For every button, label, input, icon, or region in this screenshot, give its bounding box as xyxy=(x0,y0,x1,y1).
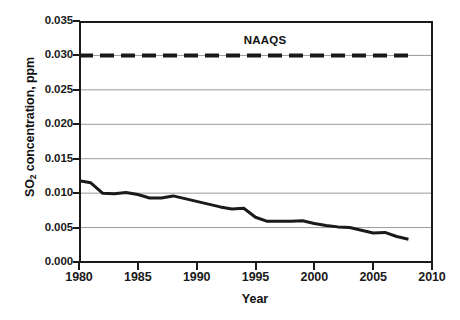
x-axis-tick-label: 1990 xyxy=(171,271,223,284)
plot-area xyxy=(79,21,432,262)
y-axis-tick-mark xyxy=(73,192,80,194)
x-axis-tick-mark xyxy=(137,263,139,270)
y-axis-title-rest: concentration, ppm xyxy=(23,57,37,175)
x-axis-tick-label: 2005 xyxy=(347,271,399,284)
y-axis-title-base: SO xyxy=(23,179,37,197)
x-axis-tick-label: 2000 xyxy=(288,271,340,284)
y-axis-tick-label: 0.035 xyxy=(27,15,73,27)
y-axis-tick-mark xyxy=(73,89,80,91)
x-axis-tick-label: 1980 xyxy=(53,271,105,284)
x-axis-tick-mark xyxy=(431,263,433,270)
y-axis-tick-mark xyxy=(73,123,80,125)
so2-concentration-chart: 0.0000.0050.0100.0150.0200.0250.0300.035… xyxy=(0,0,460,320)
x-axis-tick-mark xyxy=(372,263,374,270)
top-axis-line xyxy=(79,21,433,23)
y-axis-title: SO2 concentration, ppm xyxy=(23,27,37,227)
x-axis-title: Year xyxy=(180,292,330,306)
plot-canvas xyxy=(79,21,432,262)
x-axis-tick-mark xyxy=(78,263,80,270)
right-axis-line xyxy=(431,21,433,263)
x-axis-tick-mark xyxy=(255,263,257,270)
x-axis-tick-label: 2010 xyxy=(406,271,458,284)
x-axis-tick-label: 1985 xyxy=(112,271,164,284)
y-axis-tick-mark xyxy=(73,20,80,22)
y-axis-tick-mark xyxy=(73,158,80,160)
y-axis-tick-mark xyxy=(73,54,80,56)
y-axis-title-subscript: 2 xyxy=(28,175,38,180)
x-axis-tick-mark xyxy=(313,263,315,270)
x-axis-tick-label: 1995 xyxy=(230,271,282,284)
x-axis-tick-mark xyxy=(196,263,198,270)
y-axis-tick-label: 0.000 xyxy=(27,256,73,268)
y-axis-tick-mark xyxy=(73,227,80,229)
series-line-so2-concentration xyxy=(79,181,408,240)
naaqs-annotation-label: NAAQS xyxy=(215,34,315,46)
